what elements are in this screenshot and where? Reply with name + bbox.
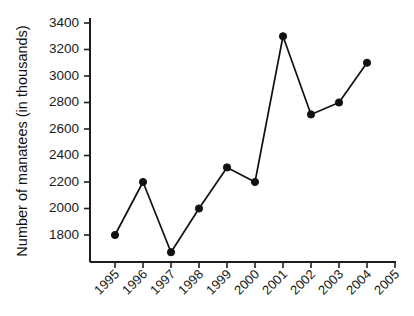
x-tick-label: 1997: [147, 267, 178, 298]
data-point: [363, 59, 370, 66]
y-axis-ticks: 180020002200240026002800300032003400: [49, 15, 90, 242]
data-point: [223, 164, 230, 171]
series-line-manatees: [115, 36, 367, 252]
data-point: [251, 178, 258, 185]
y-axis-title-group: Number of manatees (in thousands): [14, 25, 30, 256]
y-tick-label: 1800: [49, 227, 79, 242]
y-tick-label: 3000: [49, 68, 79, 83]
data-point: [195, 205, 202, 212]
y-tick-label: 2800: [49, 94, 79, 109]
x-tick-label: 1999: [203, 267, 234, 298]
data-point: [139, 178, 146, 185]
x-tick-label: 1998: [175, 267, 206, 298]
y-tick-label: 3200: [49, 41, 79, 56]
y-tick-label: 2000: [49, 200, 79, 215]
y-tick-label: 2600: [49, 121, 79, 136]
data-point: [111, 231, 118, 238]
x-tick-label: 2002: [287, 267, 318, 298]
x-tick-label: 2000: [231, 267, 262, 298]
x-tick-label: 2003: [315, 267, 346, 298]
y-axis-title: Number of manatees (in thousands): [14, 25, 30, 256]
y-tick-label: 3400: [49, 15, 79, 30]
x-axis-ticks: 1995199619971998199920002001200220032004…: [91, 262, 402, 298]
data-point: [279, 33, 286, 40]
x-tick-label: 1996: [119, 267, 150, 298]
chart-canvas: Number of manatees (in thousands) 180020…: [0, 0, 414, 316]
y-tick-label: 2400: [49, 147, 79, 162]
x-tick-label: 2005: [371, 267, 402, 298]
data-point: [307, 111, 314, 118]
manatee-line-chart: Number of manatees (in thousands) 180020…: [0, 0, 414, 316]
x-tick-label: 1995: [91, 267, 122, 298]
y-tick-label: 2200: [49, 174, 79, 189]
data-point: [335, 99, 342, 106]
series-group: [111, 33, 370, 256]
data-point: [167, 249, 174, 256]
x-tick-label: 2001: [259, 267, 290, 298]
x-tick-label: 2004: [343, 267, 374, 298]
series-markers: [111, 33, 370, 256]
